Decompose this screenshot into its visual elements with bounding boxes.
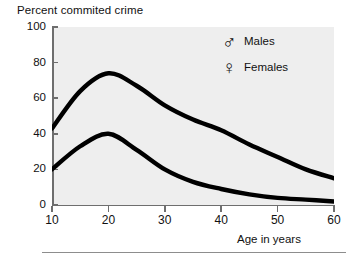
legend-item-females: ♀ Females xyxy=(218,54,338,80)
x-tick-label: 60 xyxy=(314,214,353,226)
x-tick-label: 50 xyxy=(258,214,298,226)
footer-divider xyxy=(42,252,346,253)
x-tick-label: 20 xyxy=(88,214,128,226)
y-tick-label: 0 xyxy=(14,199,46,211)
legend-item-males: ♂ Males xyxy=(218,28,338,54)
chart-title: Percent commited crime xyxy=(17,4,143,16)
x-tick-label: 10 xyxy=(32,214,72,226)
x-tick-mark xyxy=(277,206,279,212)
legend-label-males: Males xyxy=(240,35,275,47)
y-tick-label: 60 xyxy=(14,92,46,104)
legend: ♂ Males ♀ Females xyxy=(218,28,338,80)
series-line-females xyxy=(52,134,334,202)
crime-by-age-figure: Percent commited crime 020406080100 1020… xyxy=(0,0,353,265)
x-tick-mark xyxy=(108,206,110,212)
y-tick-label: 40 xyxy=(14,128,46,140)
x-tick-mark xyxy=(51,206,53,212)
mars-icon: ♂ xyxy=(218,32,240,51)
x-tick-mark xyxy=(333,206,335,212)
y-tick-label: 100 xyxy=(14,21,46,33)
y-tick-label: 20 xyxy=(14,163,46,175)
x-tick-mark xyxy=(164,206,166,212)
series-line-males xyxy=(52,73,334,178)
y-tick-label: 80 xyxy=(14,57,46,69)
venus-icon: ♀ xyxy=(218,58,240,77)
legend-label-females: Females xyxy=(240,61,288,73)
x-tick-mark xyxy=(220,206,222,212)
x-axis-label: Age in years xyxy=(237,233,301,245)
x-tick-label: 30 xyxy=(145,214,185,226)
x-tick-label: 40 xyxy=(201,214,241,226)
